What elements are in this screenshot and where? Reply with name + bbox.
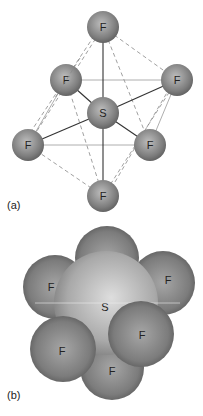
atom-f-top: F [87,11,119,43]
atoms-a: F F F S F F F [12,11,193,212]
svg-text:F: F [59,345,66,357]
svg-text:F: F [165,274,172,286]
svg-text:F: F [25,139,32,151]
svg-text:F: F [139,329,146,341]
svg-text:S: S [99,107,106,119]
atom-f-upper-right: F [161,64,193,96]
panel-b: F F F F S F F [23,226,195,400]
atom-f-lower-left-b: F [30,316,96,382]
panel-b-label: (b) [7,389,20,401]
atom-f-bottom: F [87,180,119,212]
svg-text:F: F [48,281,55,293]
atom-f-lower-right: F [134,129,166,161]
atom-f-lower-left: F [12,129,44,161]
atom-f-upper-left: F [50,64,82,96]
svg-text:F: F [100,190,107,202]
svg-text:F: F [174,74,181,86]
sf6-diagram: F F F S F F F F F F F S F F [0,0,203,416]
svg-text:F: F [147,139,154,151]
panel-a-label: (a) [7,199,20,211]
panel-a: F F F S F F F [12,11,193,212]
atom-s: S [87,97,119,129]
svg-text:F: F [109,365,116,377]
svg-text:F: F [100,21,107,33]
atom-f-lower-right-b: F [108,301,174,367]
